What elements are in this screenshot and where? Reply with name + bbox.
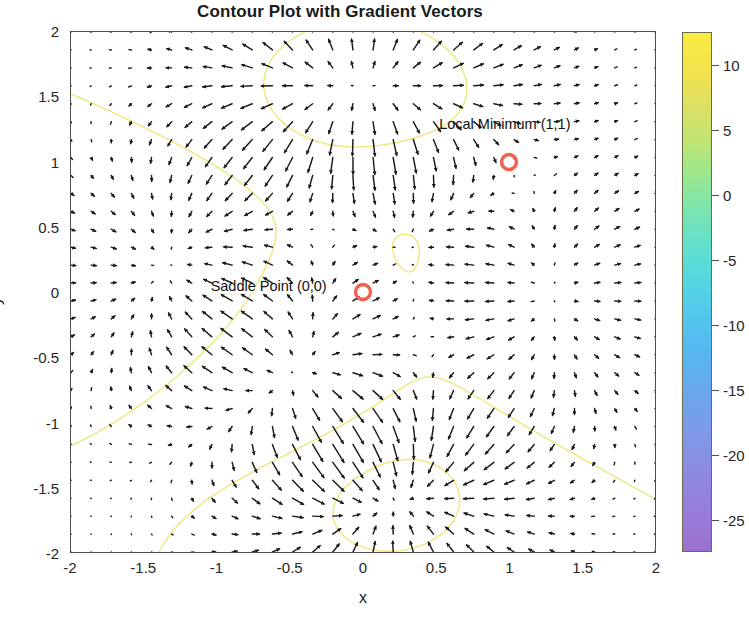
x-tick-label: 1 <box>505 559 513 576</box>
y-tick-label: -1 <box>46 414 59 431</box>
colorbar-tick-label: -25 <box>723 511 745 528</box>
page-title: Contour Plot with Gradient Vectors <box>0 2 680 22</box>
y-tick-label: 0.5 <box>38 218 59 235</box>
y-tick-label: 1.5 <box>38 88 59 105</box>
y-tick-label: 0 <box>51 284 59 301</box>
critical-point-marker <box>356 285 371 300</box>
x-tick-label: -0.5 <box>277 559 303 576</box>
colorbar-tick-mark <box>712 520 719 521</box>
colorbar-tick-label: 5 <box>723 121 731 138</box>
x-tick-label: -1.5 <box>130 559 156 576</box>
colorbar-tick-mark <box>712 260 719 261</box>
x-tick-label: -2 <box>63 559 76 576</box>
plot-axes <box>70 31 656 553</box>
colorbar-tick-mark <box>712 325 719 326</box>
annotation-label: Local Minimum (1,1) <box>439 116 570 132</box>
x-tick-label: 0.5 <box>426 559 447 576</box>
y-tick-label: -2 <box>46 545 59 562</box>
critical-point-markers <box>71 32 655 552</box>
critical-point-marker <box>502 155 517 170</box>
x-axis-label: x <box>70 589 656 607</box>
figure-canvas: Contour Plot with Gradient Vectors -2-1.… <box>0 0 749 630</box>
colorbar-tick-label: -20 <box>723 446 745 463</box>
colorbar-tick-mark <box>712 130 719 131</box>
y-tick-label: 2 <box>51 23 59 40</box>
y-tick-label: -1.5 <box>33 479 59 496</box>
y-tick-label: 1 <box>51 153 59 170</box>
x-tick-label: -1 <box>210 559 223 576</box>
colorbar-tick-mark <box>712 65 719 66</box>
colorbar-tick-label: -5 <box>723 251 736 268</box>
x-tick-label: 2 <box>652 559 660 576</box>
colorbar <box>682 32 712 552</box>
colorbar-tick-label: -15 <box>723 381 745 398</box>
colorbar-tick-mark <box>712 390 719 391</box>
colorbar-tick-label: -10 <box>723 316 745 333</box>
colorbar-tick-mark <box>712 195 719 196</box>
annotation-label: Saddle Point (0,0) <box>211 278 327 294</box>
y-axis-label: y <box>0 297 5 305</box>
colorbar-tick-label: 10 <box>723 56 740 73</box>
colorbar-tick-mark <box>712 455 719 456</box>
colorbar-tick-label: 0 <box>723 186 731 203</box>
x-tick-label: 1.5 <box>572 559 593 576</box>
x-tick-label: 0 <box>359 559 367 576</box>
y-tick-label: -0.5 <box>33 349 59 366</box>
